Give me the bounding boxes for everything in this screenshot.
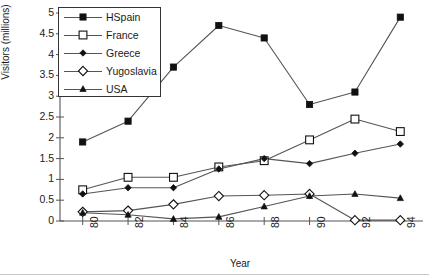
y-tick-label: 1.5 <box>18 152 54 164</box>
data-point-marker <box>124 173 132 181</box>
y-tick-label: 0 <box>18 214 54 226</box>
x-tick-label: 94 <box>405 216 417 228</box>
legend-item-usa: USA <box>59 80 160 98</box>
y-tick-label: 3 <box>18 89 54 101</box>
legend-item-hspain: HSpain <box>59 8 160 26</box>
series-markers-greece <box>79 141 403 197</box>
legend-label: HSpain <box>103 12 140 23</box>
legend-label: Greece <box>103 48 140 59</box>
x-tick-label: 90 <box>315 216 327 228</box>
legend-marker-filled-square <box>63 9 103 25</box>
data-point-marker <box>352 89 358 95</box>
data-point-marker <box>170 185 176 191</box>
y-tick-label: 2 <box>18 131 54 143</box>
data-point-marker <box>80 86 86 92</box>
legend-label: France <box>103 30 139 41</box>
y-tick-label: 4.5 <box>18 27 54 39</box>
x-tick-label: 92 <box>360 216 372 228</box>
y-tick-label: 5 <box>18 6 54 18</box>
data-point-marker <box>352 150 358 156</box>
data-point-marker <box>125 185 131 191</box>
data-point-marker <box>214 191 223 200</box>
data-point-marker <box>78 66 87 75</box>
x-tick-label: 88 <box>269 216 281 228</box>
data-point-marker <box>397 14 403 20</box>
x-tick-label: 84 <box>178 216 190 228</box>
legend-item-france: France <box>59 26 160 44</box>
x-tick-label: 82 <box>133 216 145 228</box>
legend-marker-open-diamond <box>63 63 103 79</box>
bottom-rule <box>0 274 429 275</box>
data-point-marker <box>260 191 269 200</box>
data-point-marker <box>79 31 87 39</box>
data-point-marker <box>80 50 86 56</box>
data-point-marker <box>306 160 312 166</box>
x-tick-label: 86 <box>224 216 236 228</box>
legend-item-greece: Greece <box>59 44 160 62</box>
data-point-marker <box>170 173 178 181</box>
y-tick-label: 3.5 <box>18 68 54 80</box>
legend-marker-filled-diamond <box>63 45 103 61</box>
data-point-marker <box>125 118 131 124</box>
chart-legend: HSpainFranceGreeceYugoslaviaUSA <box>58 7 161 97</box>
data-point-marker <box>80 139 86 145</box>
y-tick-label: 4 <box>18 48 54 60</box>
data-point-marker <box>169 200 178 209</box>
data-point-marker <box>350 216 359 225</box>
legend-item-yugoslavia: Yugoslavia <box>59 62 160 80</box>
legend-marker-open-square <box>63 27 103 43</box>
y-axis-title: Visitors (millions) <box>0 0 11 108</box>
data-point-marker <box>306 136 314 144</box>
data-point-marker <box>397 141 403 147</box>
line-chart-figure: Visitors (millions) Year 00.511.522.533.… <box>0 0 429 277</box>
data-point-marker <box>80 14 86 20</box>
data-point-marker <box>396 216 405 225</box>
data-point-marker <box>396 128 404 136</box>
legend-label: USA <box>103 84 128 95</box>
data-point-marker <box>170 64 176 70</box>
data-point-marker <box>306 101 312 107</box>
data-point-marker <box>216 22 222 28</box>
y-tick-label: 2.5 <box>18 110 54 122</box>
x-axis-title: Year <box>60 258 420 269</box>
legend-label: Yugoslavia <box>103 66 157 77</box>
x-tick-label: 80 <box>88 216 100 228</box>
legend-marker-filled-triangle <box>63 81 103 97</box>
data-point-marker <box>261 35 267 41</box>
y-tick-label: 1 <box>18 172 54 184</box>
data-point-marker <box>351 115 359 123</box>
y-tick-label: 0.5 <box>18 193 54 205</box>
